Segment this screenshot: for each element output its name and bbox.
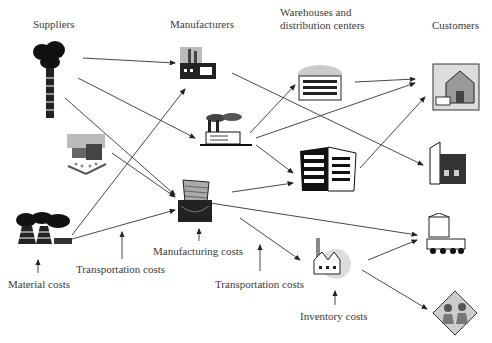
family-icon: [432, 290, 478, 336]
warehouse-building-icon: [295, 62, 345, 102]
power-plant-icon: [14, 212, 72, 248]
office-tower-icon: [298, 145, 358, 193]
smoking-factory-icon: [200, 112, 252, 146]
modern-plant-icon: [177, 178, 213, 224]
store-icon: [428, 140, 468, 186]
house-icon: [432, 63, 480, 111]
oil-well-icon: [30, 40, 70, 120]
factory-icon: [178, 45, 218, 81]
inventory-factory-icon: [312, 236, 354, 280]
farm-barn-icon: [66, 132, 108, 176]
town-shop-icon: [425, 213, 467, 257]
